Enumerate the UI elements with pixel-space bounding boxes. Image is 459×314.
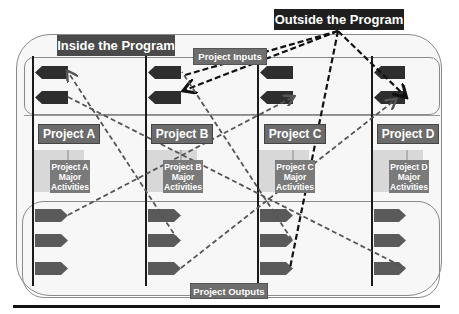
activity-line: Project C: [276, 162, 313, 172]
activity-line: Activities: [390, 182, 428, 192]
input-shapes: [35, 66, 405, 104]
outside-program-title: Outside the Program: [274, 9, 404, 30]
internal-links: [68, 72, 405, 268]
project-d-activities: Project D Major Activities: [389, 160, 429, 193]
activity-line: Major: [172, 172, 195, 182]
project-a-box: Project A: [38, 124, 100, 144]
activity-line: Major: [284, 172, 307, 182]
project-c-activities: Project C Major Activities: [275, 160, 315, 193]
activity-line: Activities: [276, 182, 314, 192]
project-inputs-label: Project Inputs: [193, 48, 267, 65]
activity-line: Project A: [51, 162, 88, 172]
project-c-box: Project C: [264, 124, 326, 144]
inside-program-title: Inside the Program: [57, 35, 175, 56]
outside-links: [185, 31, 405, 268]
output-shapes: [35, 209, 406, 275]
project-outputs-label: Project Outputs: [190, 283, 268, 299]
project-a-activities: Project A Major Activities: [50, 160, 90, 193]
activity-line: Project B: [164, 162, 201, 172]
activity-line: Activities: [51, 182, 89, 192]
project-b-box: Project B: [151, 124, 213, 144]
activity-line: Major: [398, 172, 421, 182]
project-d-box: Project D: [377, 124, 439, 144]
activity-line: Activities: [164, 182, 202, 192]
activity-line: Project D: [390, 162, 427, 172]
bottom-rule: [13, 305, 440, 308]
project-b-activities: Project B Major Activities: [163, 160, 203, 193]
activity-line: Major: [59, 172, 82, 182]
